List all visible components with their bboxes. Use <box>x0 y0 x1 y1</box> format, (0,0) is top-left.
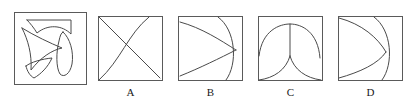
choice-d-label: D <box>366 86 374 99</box>
choice-b-label: B <box>207 86 215 99</box>
choice-c[interactable]: C <box>254 12 327 99</box>
choice-d[interactable]: D <box>334 12 407 99</box>
right-corner-curve <box>290 56 321 80</box>
choice-b-box[interactable] <box>174 12 247 85</box>
choice-c-label: C <box>287 86 295 99</box>
choice-a[interactable]: A <box>94 12 167 99</box>
lower-wing-curve <box>180 50 236 76</box>
piece-leaf-petal <box>57 32 73 76</box>
choice-d-frame <box>339 17 403 81</box>
choice-b[interactable]: B <box>174 12 247 99</box>
choice-a-box[interactable] <box>94 12 167 85</box>
pieces-panel-frame <box>15 13 87 85</box>
choice-d-box[interactable] <box>334 12 407 85</box>
pieces-panel <box>14 12 87 99</box>
choice-a-label: A <box>126 86 134 99</box>
piece-top-bridge <box>27 20 71 34</box>
left-corner-curve <box>259 56 290 80</box>
lower-left-curve <box>339 52 386 78</box>
diagonal-line <box>99 17 160 78</box>
upper-wing-curve <box>180 22 236 50</box>
pieces-panel-box <box>14 12 87 85</box>
left-bulging-curve <box>99 17 149 80</box>
upper-left-curve <box>339 18 386 52</box>
piece-arrow-triangle <box>22 28 62 70</box>
right-arc <box>374 17 390 80</box>
choice-c-box[interactable] <box>254 12 327 85</box>
right-arc <box>218 17 234 80</box>
